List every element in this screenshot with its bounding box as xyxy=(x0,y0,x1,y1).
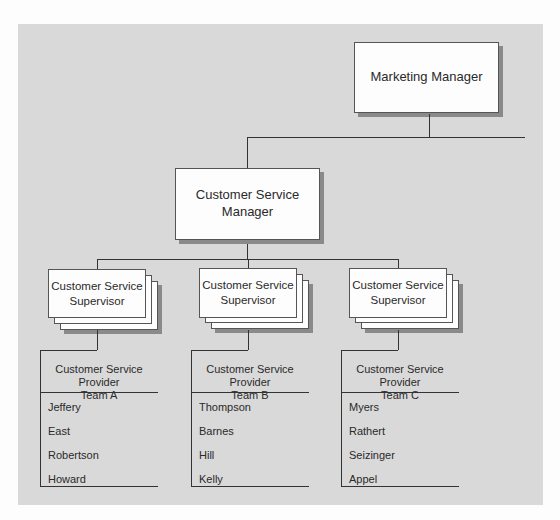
connector-line xyxy=(40,350,97,351)
team-c-bottom xyxy=(341,486,459,487)
team-c-header: Customer Service Provider Team C xyxy=(341,363,459,402)
connector-line xyxy=(247,137,248,168)
supervisor-label-line1: Customer Service xyxy=(352,278,443,293)
manager-label-line1: Customer Service xyxy=(196,187,299,204)
team-member: East xyxy=(48,425,70,438)
team-member: Jeffery xyxy=(48,401,81,414)
team-member: Myers xyxy=(349,401,379,414)
customer-service-manager-box: Customer Service Manager xyxy=(175,168,320,240)
supervisor-box-a: Customer Service Supervisor xyxy=(48,269,146,318)
connector-line xyxy=(398,259,399,268)
supervisor-label-line1: Customer Service xyxy=(51,279,142,294)
team-member: Kelly xyxy=(199,473,223,486)
team-a-header: Customer Service Provider Team A xyxy=(40,363,158,402)
supervisor-box-c: Customer Service Supervisor xyxy=(349,268,447,318)
team-header-line1: Customer Service Provider xyxy=(40,363,158,389)
connector-line xyxy=(429,114,430,137)
team-b-bottom xyxy=(191,486,309,487)
marketing-manager-label: Marketing Manager xyxy=(371,69,483,86)
team-member: Thompson xyxy=(199,401,251,414)
connector-line xyxy=(191,350,248,351)
team-b-header: Customer Service Provider Team B xyxy=(191,363,309,402)
team-member: Hill xyxy=(199,449,214,462)
connector-line xyxy=(97,330,98,350)
connector-line xyxy=(341,350,398,351)
team-member: Robertson xyxy=(48,449,99,462)
team-member: Barnes xyxy=(199,425,234,438)
manager-label-line2: Manager xyxy=(196,204,299,221)
team-header-line1: Customer Service Provider xyxy=(191,363,309,389)
connector-line xyxy=(247,137,525,138)
team-b-divider xyxy=(191,392,309,393)
connector-line xyxy=(398,330,399,350)
team-c-divider xyxy=(341,392,459,393)
team-a-divider xyxy=(40,392,158,393)
connector-line xyxy=(248,259,249,268)
supervisor-label-line2: Supervisor xyxy=(352,293,443,308)
marketing-manager-box: Marketing Manager xyxy=(354,42,499,113)
connector-line xyxy=(247,244,248,259)
connector-line xyxy=(97,259,98,269)
team-a-bottom xyxy=(40,486,158,487)
supervisor-label-line2: Supervisor xyxy=(202,293,293,308)
team-member: Appel xyxy=(349,473,377,486)
team-member: Rathert xyxy=(349,425,385,438)
supervisor-label-line1: Customer Service xyxy=(202,278,293,293)
team-member: Howard xyxy=(48,473,86,486)
connector-line xyxy=(248,330,249,350)
team-header-line1: Customer Service Provider xyxy=(341,363,459,389)
supervisor-box-b: Customer Service Supervisor xyxy=(199,268,297,318)
team-member: Seizinger xyxy=(349,449,395,462)
supervisor-label-line2: Supervisor xyxy=(51,294,142,309)
